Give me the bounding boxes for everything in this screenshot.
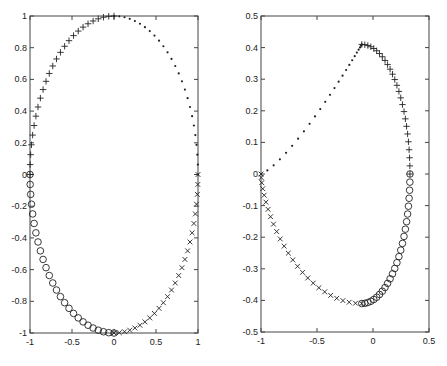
circle-marker — [406, 187, 413, 194]
dot-marker — [356, 52, 358, 54]
plus-marker — [61, 43, 67, 49]
dot-marker — [123, 16, 125, 18]
plus-marker — [66, 37, 72, 43]
x-marker — [311, 281, 316, 286]
x-marker — [188, 240, 193, 245]
y-tick-label: -0.4 — [11, 233, 27, 243]
plus-marker — [404, 131, 410, 137]
x-tick-label: 0 — [111, 337, 116, 347]
plus-marker — [376, 50, 382, 56]
circle-marker — [406, 195, 413, 202]
circle-marker — [33, 230, 40, 237]
y-tick-label: 0.5 — [245, 11, 258, 21]
dot-marker — [195, 144, 197, 146]
dot-marker — [187, 97, 189, 99]
circle-marker — [61, 299, 68, 306]
circle-marker — [31, 220, 38, 227]
circle-marker — [396, 253, 403, 260]
plus-marker — [57, 49, 63, 55]
dot-marker — [189, 106, 191, 108]
dot-marker — [197, 163, 199, 165]
y-tick-label: -0.2 — [242, 232, 258, 242]
dot-marker — [170, 58, 172, 60]
x-marker — [328, 293, 333, 298]
x-marker — [185, 248, 190, 253]
plus-marker — [406, 155, 412, 161]
dot-marker — [193, 124, 195, 126]
circle-marker — [49, 280, 56, 287]
plus-marker — [40, 86, 46, 92]
plus-marker — [70, 32, 76, 38]
x-marker — [161, 300, 166, 305]
plus-marker — [398, 95, 404, 101]
plus-marker — [43, 78, 49, 84]
x-marker — [173, 281, 178, 286]
x-tick-label: -1 — [257, 336, 265, 346]
y-tick-label: 0.4 — [14, 106, 27, 116]
x-marker — [138, 323, 143, 328]
x-marker — [152, 311, 157, 316]
plus-marker — [85, 21, 91, 27]
circle-marker — [403, 218, 410, 225]
dot-marker — [129, 18, 131, 20]
circle-marker — [46, 272, 53, 279]
dot-marker — [303, 130, 305, 132]
figure: -1-0.500.51-1-0.8-0.6-0.4-0.200.20.40.60… — [0, 0, 447, 366]
plus-marker — [401, 108, 407, 114]
x-marker — [290, 257, 295, 262]
y-tick-label: -1 — [19, 328, 27, 338]
y-tick-label: -0.2 — [11, 201, 27, 211]
dot-marker — [285, 152, 287, 154]
x-tick-label: 0.5 — [423, 336, 436, 346]
circle-marker — [405, 203, 412, 210]
x-marker — [316, 285, 321, 290]
x-tick-label: -1 — [26, 337, 34, 347]
x-marker — [305, 276, 310, 281]
dot-marker — [291, 145, 293, 147]
y-tick-label: 0.6 — [14, 74, 27, 84]
circle-marker — [85, 322, 92, 329]
x-marker — [271, 222, 276, 227]
dot-marker — [354, 55, 356, 57]
series-quadrant-3 — [359, 171, 414, 307]
x-marker — [295, 264, 300, 269]
x-marker — [165, 294, 170, 299]
dot-marker — [191, 115, 193, 117]
dot-marker — [324, 101, 326, 103]
dot-marker — [178, 72, 180, 74]
series-quadrant-2 — [27, 13, 117, 178]
circle-marker — [401, 233, 408, 240]
circle-marker — [402, 226, 409, 233]
x-marker — [132, 326, 137, 331]
dot-marker — [144, 26, 146, 28]
dot-marker — [166, 51, 168, 53]
x-marker — [278, 237, 283, 242]
dot-marker — [345, 69, 347, 71]
x-marker — [268, 214, 273, 219]
plus-marker — [35, 104, 41, 110]
dot-marker — [149, 30, 151, 32]
right-plot-mapped-curve: -1-0.500.5-0.5-0.4-0.3-0.2-0.100.10.20.3… — [242, 11, 435, 346]
dot-marker — [273, 164, 275, 166]
y-tick-label: -0.5 — [242, 327, 258, 337]
plus-marker — [407, 163, 413, 169]
circle-marker — [35, 239, 42, 246]
series-quadrant-2 — [359, 41, 414, 177]
plus-marker — [80, 24, 86, 30]
circle-marker — [57, 293, 64, 300]
circle-marker — [407, 179, 414, 186]
plus-marker — [362, 41, 368, 47]
y-tick-label: 0.8 — [14, 43, 27, 53]
x-marker — [322, 289, 327, 294]
dot-marker — [196, 154, 198, 156]
dot-marker — [181, 80, 183, 82]
plus-marker — [27, 151, 33, 157]
x-marker — [300, 270, 305, 275]
dot-marker — [329, 94, 331, 96]
plus-marker — [53, 56, 59, 62]
dot-marker — [118, 15, 120, 17]
series-quadrant-4 — [259, 172, 365, 306]
dot-marker — [162, 45, 164, 47]
y-tick-label: 0.2 — [14, 138, 27, 148]
dot-marker — [297, 138, 299, 140]
